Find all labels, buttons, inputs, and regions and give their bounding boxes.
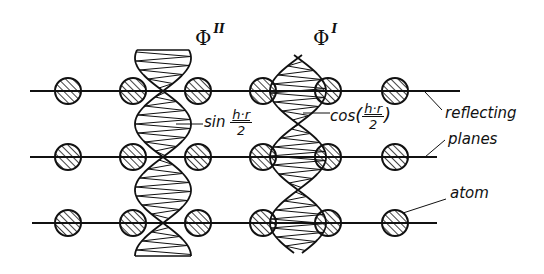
atom-label: atom [450,184,489,202]
cos-numerator: h·r [362,102,384,117]
reflecting-leader [425,92,442,110]
sin-denominator: 2 [230,123,252,137]
atom-circle [185,144,211,170]
atom-circle [120,210,146,236]
cos-open-paren: ( [355,104,362,125]
sin-fraction: h·r 2 [230,108,252,137]
reflecting-label: reflecting [445,104,517,122]
atom-circle [55,78,81,104]
phi-superscript: I [331,22,337,36]
sin-numerator: h·r [230,108,252,123]
atom-circle [315,78,341,104]
atom-circle [120,144,146,170]
atom-circle [55,210,81,236]
atom-circle [250,210,276,236]
atom-circle [120,78,146,104]
atom-circle [382,144,408,170]
cos-denominator: 2 [362,117,384,131]
planes-leader [425,140,445,157]
atom-circle [250,78,276,104]
cos-fraction: h·r 2 [362,102,384,131]
cos-func: cos [330,107,355,125]
atom-circle [382,210,408,236]
phi-II-label: ΦII [195,26,225,50]
phi-I-label: ΦI [313,26,337,50]
phi-symbol: Φ [313,26,329,50]
sin-term-label: sin h·r 2 [204,108,252,137]
atom-leader [403,199,446,213]
atom-circle [315,144,341,170]
atom-circle [250,144,276,170]
atom-circle [185,78,211,104]
phi-superscript: II [213,22,224,36]
atom-circle [315,210,341,236]
atom-circle [382,78,408,104]
planes-label: planes [448,130,497,148]
diagram-stage: ΦII ΦI sin h·r 2 cos( h·r 2 ) reflecting… [0,0,544,274]
atom-circle [55,144,81,170]
cos-close-paren: ) [384,104,391,125]
phi-symbol: Φ [195,26,211,50]
sin-func: sin [204,113,226,131]
atom-circle [185,210,211,236]
cos-term-label: cos( h·r 2 ) [330,102,391,131]
